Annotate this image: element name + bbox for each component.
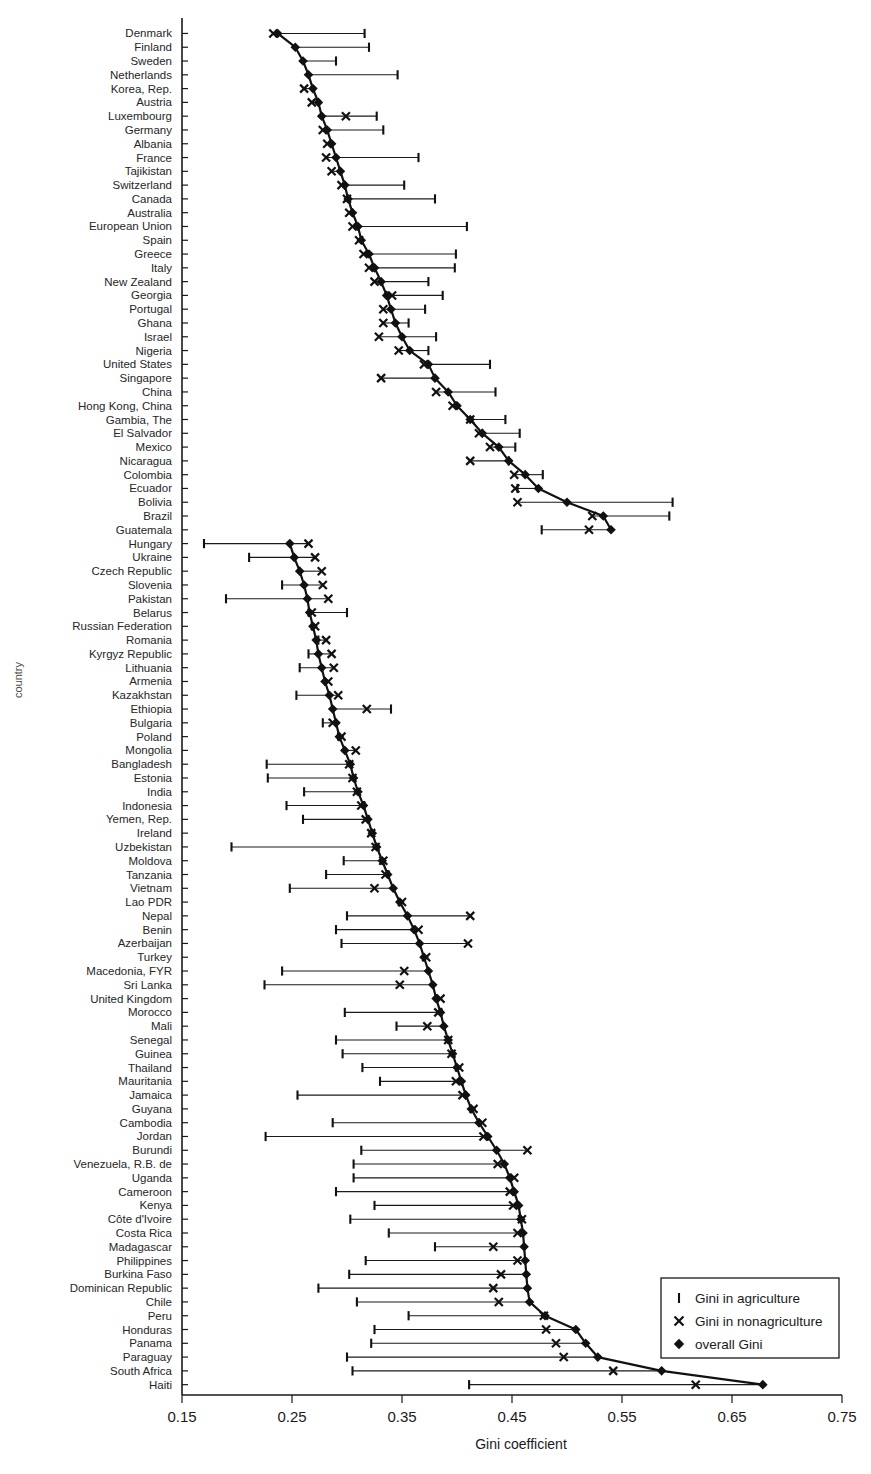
y-axis-label: Russian Federation xyxy=(72,620,172,632)
y-axis-label: Canada xyxy=(132,193,173,205)
y-axis-label: Bulgaria xyxy=(130,717,173,729)
y-axis-label: Tanzania xyxy=(126,869,173,881)
country-row xyxy=(375,332,436,342)
y-axis-label: Sweden xyxy=(130,55,172,67)
x-axis-tick-label: 0.15 xyxy=(167,1408,196,1425)
y-axis-label: Honduras xyxy=(122,1324,172,1336)
y-axis-label: Portugal xyxy=(129,303,172,315)
y-axis-label: Kenya xyxy=(139,1199,172,1211)
country-row xyxy=(308,98,323,108)
country-row xyxy=(397,1021,449,1031)
country-row xyxy=(291,42,370,52)
y-axis-label: Benin xyxy=(143,924,172,936)
y-axis-label: Poland xyxy=(136,731,172,743)
y-axis-label: India xyxy=(147,786,173,798)
y-axis-label: Panama xyxy=(129,1337,172,1349)
y-axis-label: Lao PDR xyxy=(125,896,172,908)
x-axis-tick-label: 0.35 xyxy=(387,1408,416,1425)
country-row xyxy=(469,1380,767,1390)
country-row xyxy=(232,842,382,852)
country-row xyxy=(389,1228,528,1238)
y-axis-label: Korea, Rep. xyxy=(111,83,172,95)
country-row xyxy=(333,1118,487,1128)
country-row xyxy=(249,553,319,563)
y-axis-label: Turkey xyxy=(137,951,172,963)
x-axis-tick-label: 0.55 xyxy=(607,1408,636,1425)
data-rows xyxy=(204,29,768,1390)
y-axis-label: Guinea xyxy=(135,1048,173,1060)
country-row xyxy=(226,594,332,604)
y-axis-label: Germany xyxy=(125,124,173,136)
y-axis-label: Jamaica xyxy=(129,1089,172,1101)
legend-item: Gini in nonagriculture xyxy=(675,1314,823,1329)
y-axis-label: Paraguay xyxy=(123,1351,172,1363)
country-row xyxy=(300,663,338,673)
y-axis-label: Chile xyxy=(146,1296,172,1308)
y-axis-label: Slovenia xyxy=(128,579,173,591)
country-row xyxy=(354,1159,510,1169)
y-axis-label: Czech Republic xyxy=(91,565,172,577)
country-row xyxy=(343,194,435,204)
y-axis-label: Venezuela, R.B. de xyxy=(74,1158,172,1170)
y-axis-label: Austria xyxy=(136,96,172,108)
country-row xyxy=(317,111,377,121)
y-axis-label: Ecuador xyxy=(129,482,172,494)
x-axis-tick-label: 0.75 xyxy=(827,1408,856,1425)
country-row xyxy=(309,649,336,659)
country-row xyxy=(375,1325,581,1335)
country-row xyxy=(347,911,474,921)
y-axis-label: Ethiopia xyxy=(130,703,172,715)
y-axis-label: Finland xyxy=(134,41,172,53)
legend-item: Gini in agriculture xyxy=(679,1291,800,1306)
y-axis-label: Italy xyxy=(151,262,172,274)
y-axis-label: Thailand xyxy=(128,1062,172,1074)
country-row xyxy=(365,263,455,273)
y-axis-label: El Salvador xyxy=(113,427,172,439)
y-axis-label: Estonia xyxy=(134,772,173,784)
chart-legend: Gini in agricultureGini in nonagricultur… xyxy=(661,1278,839,1358)
country-row xyxy=(338,180,405,190)
y-axis-label: Mongolia xyxy=(125,744,172,756)
y-axis-label: Mexico xyxy=(136,441,172,453)
y-axis-country-labels: DenmarkFinlandSwedenNetherlandsKorea, Re… xyxy=(70,27,173,1390)
y-axis-label: Yemen, Rep. xyxy=(106,813,172,825)
country-row xyxy=(298,1090,471,1100)
country-row xyxy=(267,759,355,769)
country-row xyxy=(349,222,467,232)
country-row xyxy=(304,70,398,80)
country-row xyxy=(375,1201,524,1211)
y-axis-label: New Zealand xyxy=(104,276,172,288)
y-axis-label: Senegal xyxy=(130,1034,172,1046)
x-axis-tick-label: 0.45 xyxy=(497,1408,526,1425)
country-row xyxy=(336,925,423,935)
y-axis-label: Luxembourg xyxy=(108,110,172,122)
y-axis-label: Dominican Republic xyxy=(70,1282,173,1294)
country-row xyxy=(266,1132,493,1142)
x-axis: 0.150.250.350.450.550.650.75 xyxy=(167,18,856,1425)
y-axis-label: Switzerland xyxy=(113,179,172,191)
gini-chart-page: DenmarkFinlandSwedenNetherlandsKorea, Re… xyxy=(0,0,871,1474)
country-row xyxy=(435,1242,529,1252)
country-row xyxy=(542,525,616,535)
country-row xyxy=(354,1173,519,1183)
overall-gini-connector xyxy=(278,33,611,529)
y-axis-label: Pakistan xyxy=(128,593,172,605)
y-axis-label: Belarus xyxy=(133,607,172,619)
y-axis-label: Kyrgyz Republic xyxy=(89,648,172,660)
y-axis-label: Ukraine xyxy=(132,551,172,563)
y-axis-label: Macedonia, FYR xyxy=(86,965,172,977)
y-axis-label: Nepal xyxy=(142,910,172,922)
y-axis-label: Mali xyxy=(151,1020,172,1032)
y-axis-label: Vietnam xyxy=(130,882,172,894)
country-row xyxy=(514,497,673,507)
y-axis-label: Peru xyxy=(148,1310,172,1322)
y-axis-label: Burundi xyxy=(132,1144,172,1156)
y-axis-label: Burkina Faso xyxy=(104,1268,172,1280)
y-axis-label: Lithuania xyxy=(125,662,172,674)
legend-label: Gini in agriculture xyxy=(695,1291,800,1306)
y-axis-label: Guyana xyxy=(132,1103,173,1115)
y-axis-label: Ireland xyxy=(137,827,172,839)
gini-dot-plot: DenmarkFinlandSwedenNetherlandsKorea, Re… xyxy=(0,0,871,1474)
country-row xyxy=(282,966,433,976)
country-row xyxy=(326,870,392,880)
